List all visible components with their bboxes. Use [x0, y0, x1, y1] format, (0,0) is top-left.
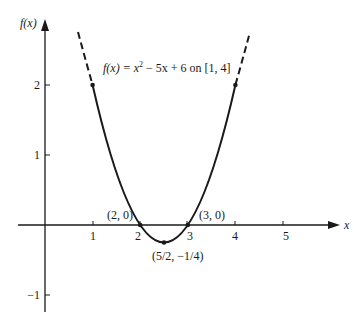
point-label-2-0: (2, 0): [107, 208, 133, 222]
point-1-2: [90, 83, 95, 88]
function-plot: 1 2 3 4 5 2 1 −1 f(x) x f(x) = x2 − 5x +…: [0, 0, 354, 325]
x-tick-label: 4: [232, 229, 238, 243]
y-tick-label: 2: [34, 78, 40, 92]
point-vertex: [162, 240, 167, 245]
y-axis-label: f(x): [20, 16, 37, 30]
y-tick-label: 1: [34, 148, 40, 162]
y-tick-label: −1: [27, 288, 40, 302]
x-axis-arrow-icon: [328, 221, 340, 229]
x-axis-label: x: [343, 218, 350, 232]
x-tick-label: 1: [90, 229, 96, 243]
y-axis-arrow-icon: [41, 19, 49, 31]
point-4-2: [233, 83, 238, 88]
formula-annotation: f(x) = x2 − 5x + 6 on [1, 4]: [103, 60, 231, 75]
y-ticks: [45, 85, 50, 295]
vertex-label: (5/2, −1/4): [152, 249, 203, 263]
curve-dashed-left: [78, 32, 93, 85]
curve-dashed-right: [235, 32, 250, 85]
point-label-3-0: (3, 0): [199, 208, 225, 222]
point-3-0: [186, 223, 191, 228]
x-tick-label: 3: [187, 229, 193, 243]
x-tick-label: 5: [283, 229, 289, 243]
x-tick-label: 2: [135, 229, 141, 243]
point-2-0: [138, 223, 143, 228]
